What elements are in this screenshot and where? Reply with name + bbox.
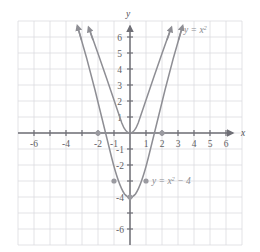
curve-arrow-right: [167, 28, 171, 41]
y-tick-label: -2: [116, 161, 124, 171]
y-tick-label: 3: [117, 81, 122, 91]
x-tick-label: -2: [94, 139, 102, 149]
point-marker: [111, 178, 116, 183]
y-axis-label: y: [125, 9, 131, 19]
equation2-label-suffix: − 4: [175, 176, 191, 186]
svg-text:y = x2: y = x2: [183, 24, 208, 36]
y-tick-label: -1: [116, 145, 124, 155]
equation2-label-text: y = x: [151, 176, 172, 186]
point-marker: [159, 130, 164, 135]
coordinate-plane-svg: -6 -4 -2 -1 1 2 3 4 5 6 6 5 4 3 2 1 -1 -…: [0, 0, 260, 252]
y-tick-labels: 6 5 4 3 2 1 -1 -2 -4 -6: [116, 33, 124, 235]
y-tick-label: -4: [116, 193, 124, 203]
x-tick-label: 6: [224, 139, 229, 149]
equation-label-x-squared: y = x2: [183, 24, 208, 36]
curve2-arrow-left: [77, 26, 81, 40]
x-tick-label: -4: [62, 139, 70, 149]
curve2-arrow-right: [179, 26, 183, 40]
y-tick-label: 2: [117, 97, 122, 107]
curve-arrow-left: [89, 28, 93, 41]
equation-label-x-squared-minus-4: y = x2 − 4: [151, 175, 191, 187]
x-axis-label: x: [240, 128, 246, 138]
y-tick-label: -6: [116, 225, 124, 235]
x-tick-label: 4: [192, 139, 197, 149]
svg-text:y = x2 − 4: y = x2 − 4: [151, 175, 191, 187]
y-tick-label: 4: [117, 65, 122, 75]
x-tick-label: 2: [160, 139, 165, 149]
equation-label-exponent: 2: [204, 24, 208, 31]
y-tick-label: 6: [117, 33, 122, 43]
y-tick-label: 5: [117, 49, 122, 59]
x-tick-label: -6: [30, 139, 38, 149]
graph-figure: -6 -4 -2 -1 1 2 3 4 5 6 6 5 4 3 2 1 -1 -…: [0, 0, 260, 252]
x-tick-label: 1: [144, 139, 149, 149]
point-marker: [127, 194, 132, 199]
x-tick-label: 3: [176, 139, 181, 149]
equation-label-text: y = x: [183, 25, 204, 35]
x-tick-label: 5: [208, 139, 213, 149]
point-marker: [143, 178, 148, 183]
point-marker: [95, 130, 100, 135]
